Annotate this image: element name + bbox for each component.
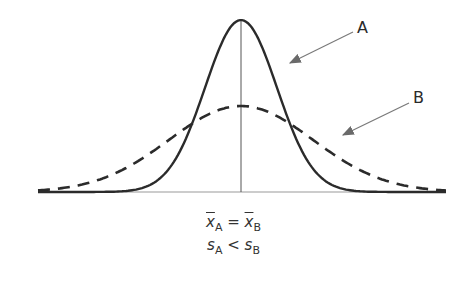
curve-b [38, 106, 446, 191]
arrow-b [343, 103, 409, 135]
label-a: A [357, 18, 368, 37]
equation-means: xA = xB [0, 213, 467, 234]
arrow-a [290, 32, 353, 63]
label-b: B [413, 88, 424, 107]
equation-std-devs: sA < sB [0, 236, 467, 257]
